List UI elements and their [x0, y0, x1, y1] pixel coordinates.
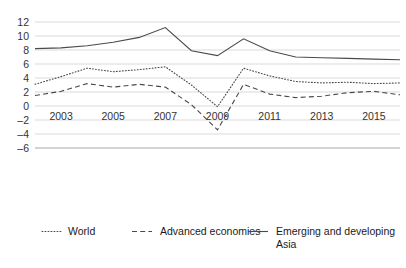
y-axis-tick-label: 12 [17, 16, 29, 28]
y-axis-tick-label: 10 [17, 30, 29, 42]
legend-label-continued: Asia [276, 238, 297, 250]
y-axis-tick-label: –4 [17, 128, 29, 140]
y-axis-tick-label: –2 [17, 114, 29, 126]
y-axis-tick-label: 2 [23, 86, 29, 98]
y-axis-labels-group: 121086420–2–4–6 [17, 16, 29, 154]
series-line-solid [35, 28, 400, 60]
chart-canvas: 121086420–2–4–6 200320052007200920112013… [0, 0, 406, 268]
y-axis-tick-label: 0 [23, 100, 29, 112]
x-axis-tick-label: 2013 [310, 110, 334, 122]
legend-label: Emerging and developing [276, 225, 395, 237]
x-axis-tick-label: 2003 [49, 110, 73, 122]
x-axis-tick-label: 2005 [102, 110, 126, 122]
line-chart: 121086420–2–4–6 200320052007200920112013… [0, 0, 406, 268]
legend-label: Advanced economies [160, 225, 260, 237]
x-axis-tick-label: 2011 [258, 110, 281, 122]
y-axis-tick-label: 6 [23, 58, 29, 70]
series-line-dotted [35, 67, 400, 107]
legend-label: World [68, 225, 95, 237]
x-axis-tick-label: 2015 [362, 110, 386, 122]
y-axis-tick-label: 4 [23, 72, 29, 84]
x-axis-tick-label: 2007 [154, 110, 178, 122]
y-axis-tick-label: 8 [23, 44, 29, 56]
y-axis-tick-label: –6 [17, 142, 29, 154]
chart-legend: WorldAdvanced economiesEmerging and deve… [42, 225, 395, 250]
